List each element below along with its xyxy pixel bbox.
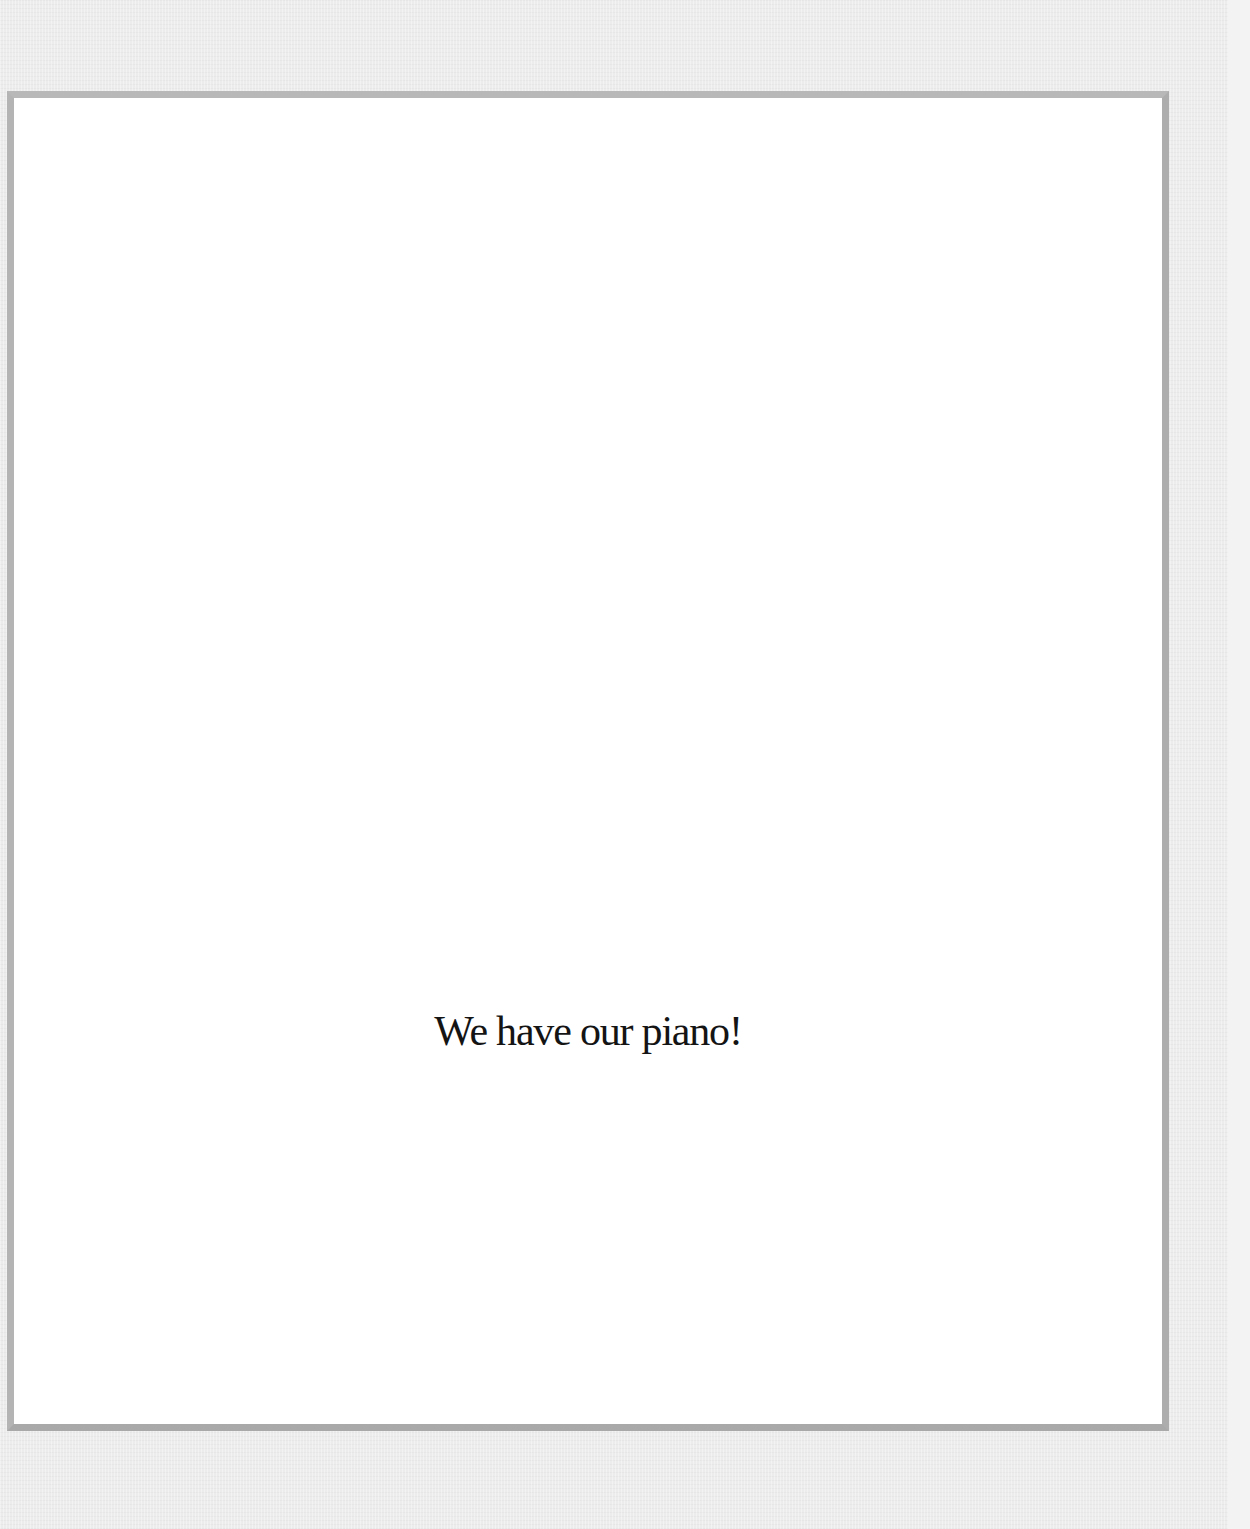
page-frame: We have our piano! bbox=[7, 91, 1169, 1431]
page-text: We have our piano! bbox=[14, 1010, 1162, 1052]
page-edge bbox=[1228, 0, 1250, 1529]
